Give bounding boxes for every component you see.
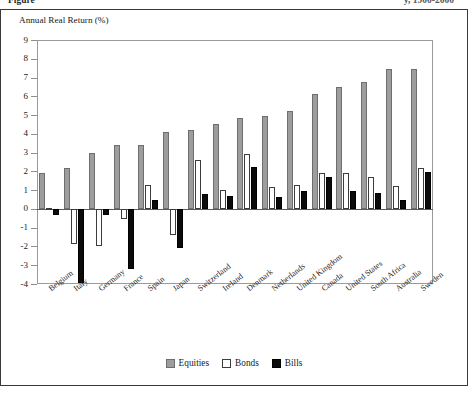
bar-equities[interactable] bbox=[64, 168, 70, 209]
figure-caption-strip: Figure y, 1900-2000 bbox=[0, 0, 468, 9]
figure-container: Figure y, 1900-2000 Annual Real Return (… bbox=[0, 0, 468, 393]
bar-bills[interactable] bbox=[177, 209, 183, 248]
frame-top-rule bbox=[0, 9, 468, 10]
y-tick-label: 7 bbox=[0, 73, 28, 82]
y-tick-label: 4 bbox=[0, 129, 28, 138]
bar-equities[interactable] bbox=[237, 118, 243, 209]
bar-equities[interactable] bbox=[39, 173, 45, 209]
bar-series-layer bbox=[37, 40, 433, 284]
bar-bonds[interactable] bbox=[269, 187, 275, 209]
bar-equities[interactable] bbox=[138, 145, 144, 209]
bar-group bbox=[285, 40, 310, 284]
bar-bills[interactable] bbox=[53, 209, 59, 215]
bar-bills[interactable] bbox=[103, 209, 109, 216]
bar-bonds[interactable] bbox=[170, 209, 176, 235]
bar-bills[interactable] bbox=[227, 196, 233, 209]
bar-bonds[interactable] bbox=[319, 173, 325, 209]
bar-equities[interactable] bbox=[188, 130, 194, 209]
bar-group bbox=[186, 40, 211, 284]
legend-swatch-equities-icon bbox=[166, 359, 175, 368]
bar-group bbox=[408, 40, 433, 284]
y-tick-label: 0 bbox=[0, 204, 28, 213]
bar-group bbox=[161, 40, 186, 284]
bar-group bbox=[334, 40, 359, 284]
bar-bonds[interactable] bbox=[46, 208, 52, 210]
y-tick-label: 9 bbox=[0, 36, 28, 45]
bar-equities[interactable] bbox=[411, 69, 417, 209]
y-tick-label: 5 bbox=[0, 111, 28, 120]
bar-bills[interactable] bbox=[152, 200, 158, 208]
frame-bottom-rule bbox=[0, 385, 468, 386]
bar-bills[interactable] bbox=[400, 200, 406, 208]
bar-equities[interactable] bbox=[336, 87, 342, 209]
y-tick-label: 1 bbox=[0, 186, 28, 195]
legend-swatch-bonds-icon bbox=[222, 359, 231, 368]
y-tick-label: -2 bbox=[0, 242, 28, 251]
bar-bills[interactable] bbox=[78, 209, 84, 283]
legend-item-bonds[interactable]: Bonds bbox=[222, 358, 259, 368]
legend-label: Bonds bbox=[235, 358, 259, 368]
bar-bonds[interactable] bbox=[195, 160, 201, 209]
bar-bills[interactable] bbox=[251, 167, 257, 209]
bar-equities[interactable] bbox=[386, 69, 392, 209]
legend-item-bills[interactable]: Bills bbox=[272, 358, 303, 368]
bar-bills[interactable] bbox=[375, 193, 381, 209]
bar-group bbox=[235, 40, 260, 284]
bar-equities[interactable] bbox=[312, 94, 318, 208]
legend-item-equities[interactable]: Equities bbox=[166, 358, 209, 368]
y-tick-mark bbox=[31, 284, 37, 285]
bar-equities[interactable] bbox=[163, 132, 169, 209]
y-tick-label: 3 bbox=[0, 148, 28, 157]
legend-label: Bills bbox=[285, 358, 303, 368]
bar-equities[interactable] bbox=[89, 153, 95, 209]
y-tick-label: 8 bbox=[0, 54, 28, 63]
y-tick-label: -3 bbox=[0, 261, 28, 270]
bar-group bbox=[309, 40, 334, 284]
chart-legend: EquitiesBondsBills bbox=[0, 358, 468, 368]
bar-bonds[interactable] bbox=[418, 168, 424, 209]
legend-swatch-bills-icon bbox=[272, 359, 281, 368]
x-axis-labels: BelgiumItalyGermanyFranceSpainJapanSwitz… bbox=[37, 286, 437, 356]
bar-equities[interactable] bbox=[114, 145, 120, 209]
bar-equities[interactable] bbox=[213, 124, 219, 208]
bar-equities[interactable] bbox=[287, 111, 293, 209]
bar-bills[interactable] bbox=[202, 194, 208, 209]
y-axis-label: Annual Real Return (%) bbox=[19, 15, 109, 25]
bar-bonds[interactable] bbox=[71, 209, 77, 244]
bar-bonds[interactable] bbox=[220, 190, 226, 209]
bar-group bbox=[111, 40, 136, 284]
bar-bills[interactable] bbox=[128, 209, 134, 269]
bar-group bbox=[136, 40, 161, 284]
bar-bills[interactable] bbox=[326, 177, 332, 209]
bar-group bbox=[210, 40, 235, 284]
bar-group bbox=[260, 40, 285, 284]
bar-group bbox=[62, 40, 87, 284]
bar-group bbox=[37, 40, 62, 284]
bar-bonds[interactable] bbox=[121, 209, 127, 219]
bar-bonds[interactable] bbox=[393, 186, 399, 209]
bar-bonds[interactable] bbox=[244, 154, 250, 209]
bar-bonds[interactable] bbox=[294, 185, 300, 208]
bar-bonds[interactable] bbox=[368, 177, 374, 209]
bar-bills[interactable] bbox=[425, 172, 431, 209]
y-tick-label: -4 bbox=[0, 280, 28, 289]
bar-bills[interactable] bbox=[350, 191, 356, 209]
bar-bills[interactable] bbox=[276, 197, 282, 209]
bar-equities[interactable] bbox=[361, 82, 367, 209]
y-tick-label: -1 bbox=[0, 223, 28, 232]
bar-group bbox=[384, 40, 409, 284]
y-tick-label: 2 bbox=[0, 167, 28, 176]
bar-group bbox=[87, 40, 112, 284]
bar-bonds[interactable] bbox=[343, 173, 349, 209]
bar-group bbox=[359, 40, 384, 284]
bar-equities[interactable] bbox=[262, 116, 268, 209]
bar-bonds[interactable] bbox=[145, 185, 151, 209]
figure-caption-left: Figure bbox=[8, 0, 35, 5]
legend-label: Equities bbox=[179, 358, 209, 368]
y-tick-label: 6 bbox=[0, 92, 28, 101]
bar-bills[interactable] bbox=[301, 191, 307, 209]
bar-bonds[interactable] bbox=[96, 209, 102, 247]
figure-caption-right: y, 1900-2000 bbox=[404, 0, 454, 5]
